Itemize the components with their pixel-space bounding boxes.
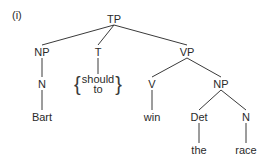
node-t: T [95,46,102,58]
t-options-brace: { should to } [74,74,122,94]
word-bart: Bart [32,111,52,123]
node-det: Det [190,111,207,123]
node-vp: VP [180,46,195,58]
node-n-object: N [242,111,250,123]
word-win: win [144,111,161,123]
syntax-tree-diagram: (i) TP NP T VP N { should to } V NP Bart… [0,0,266,163]
left-brace-icon: { [74,74,81,94]
example-number: (i) [12,9,22,21]
t-options: should to [81,74,115,94]
node-np-subject: NP [34,46,49,58]
node-v: V [148,78,155,90]
word-the: the [191,144,206,156]
t-option-to: to [93,84,102,94]
node-n-subject: N [38,78,46,90]
right-brace-icon: } [115,74,122,94]
node-np-object: NP [213,78,228,90]
node-tp: TP [107,13,121,25]
word-race: race [235,144,256,156]
